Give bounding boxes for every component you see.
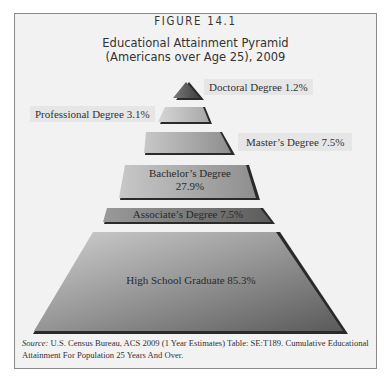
source-text: U.S. Census Bureau, ACS 2009 (1 Year Est… — [22, 338, 369, 360]
label-doctoral: Doctoral Degree 1.2% — [204, 79, 313, 95]
layer-professional — [158, 107, 212, 124]
label-bachelors: Bachelor’s Degree 27.9% — [120, 167, 260, 193]
source-note: Source: U.S. Census Bureau, ACS 2009 (1 … — [22, 337, 372, 361]
label-highschool: High School Graduate 85.3% — [34, 274, 348, 286]
label-masters: Master’s Degree 7.5% — [238, 133, 352, 151]
layer-doctoral — [173, 82, 204, 100]
label-bachelors-line2: 27.9% — [120, 180, 260, 193]
source-label: Source: — [22, 338, 48, 348]
layer-masters — [144, 132, 235, 155]
label-bachelors-line1: Bachelor’s Degree — [120, 167, 260, 180]
label-professional: Professional Degree 3.1% — [30, 106, 155, 122]
label-associates: Associate’s Degree 7.5% — [104, 208, 272, 220]
